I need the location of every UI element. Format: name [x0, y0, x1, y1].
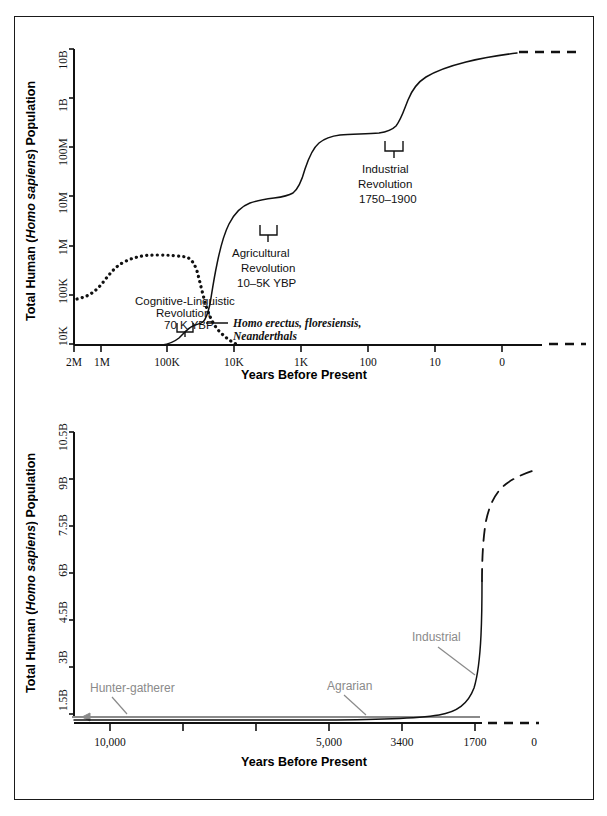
- bottom-ytick-6: 10.5B: [57, 423, 69, 451]
- top-y-title-italic: Homo sapiens: [24, 153, 38, 238]
- bottom-xtick-0: 10,000: [94, 736, 126, 749]
- top-xtick-2: 100K: [154, 356, 180, 368]
- cognitive-line-2: Revolution: [156, 307, 210, 319]
- hunter-gatherer-annotation: Hunter-gatherer: [90, 681, 175, 714]
- cognitive-line-3: 70 K YBP: [164, 319, 214, 331]
- top-ytick-2: 1M: [57, 239, 69, 255]
- bottom-xtick-1: 5,000: [316, 736, 342, 749]
- industrial-line-2: Revolution: [358, 178, 412, 190]
- bottom-y-axis: [69, 432, 74, 716]
- top-x-tick-labels: 2M 1M 100K 10K 1K 100 10 0: [66, 356, 505, 368]
- top-chart-svg: 10K 100K 1M 10M 100M 1B 10B: [14, 16, 594, 386]
- bottom-chart: Total Human (Homo sapiens) Population 1.…: [14, 398, 594, 798]
- bottom-x-axis: [74, 723, 482, 731]
- top-xtick-4: 1K: [294, 356, 309, 368]
- industrial-annotation: Industrial: [412, 630, 475, 675]
- archaic-humans-annotation: Homo erectus, floresiensis, Neanderthals: [206, 317, 361, 342]
- archaic-line-1: Homo erectus, floresiensis,: [232, 317, 361, 330]
- agricultural-line-2: Revolution: [241, 262, 295, 274]
- top-xtick-0: 2M: [66, 356, 82, 368]
- bottom-y-tick-labels: 1.5B 3B 4.5B 6B 7.5B 9B 10.5B: [57, 423, 69, 711]
- agricultural-line-3: 10–5K YBP: [237, 277, 297, 289]
- top-xtick-6: 10: [429, 356, 441, 368]
- top-ytick-1: 100K: [57, 278, 69, 304]
- top-y-title-post: ) Population: [24, 81, 38, 153]
- top-xtick-5: 100: [359, 356, 377, 368]
- top-y-title-pre: Total Human (: [24, 239, 38, 321]
- top-y-tick-labels: 10K 100K 1M 10M 100M 1B 10B: [57, 50, 69, 346]
- industrial-line-3: 1750–1900: [359, 193, 417, 205]
- agricultural-revolution-annotation: Agricultural Revolution 10–5K YBP: [232, 247, 297, 289]
- bottom-ytick-5: 9B: [57, 476, 69, 490]
- bottom-xtick-4: 0: [531, 736, 537, 748]
- bottom-x-tick-labels: 10,000 5,000 3400 1700 0: [94, 736, 537, 749]
- top-ytick-0: 10K: [57, 325, 69, 346]
- top-xtick-1: 1M: [94, 356, 110, 368]
- top-xtick-7: 0: [499, 356, 505, 368]
- top-ytick-3: 10M: [57, 192, 69, 214]
- top-x-axis-title: Years Before Present: [14, 368, 594, 382]
- top-chart: Total Human (Homo sapiens) Population 10…: [14, 16, 594, 386]
- industrial-revolution-bracket: [385, 141, 403, 158]
- bottom-ytick-1: 3B: [57, 650, 69, 664]
- bottom-y-title-pre: Total Human (: [24, 611, 38, 693]
- population-curve: [74, 581, 482, 720]
- bottom-x-axis-title: Years Before Present: [14, 755, 594, 769]
- population-figure: Total Human (Homo sapiens) Population 10…: [0, 0, 607, 816]
- agricultural-revolution-bracket: [260, 225, 277, 242]
- agricultural-line-1: Agricultural: [232, 247, 290, 259]
- top-ytick-5: 1B: [57, 98, 69, 112]
- bottom-ytick-3: 6B: [57, 563, 69, 577]
- top-ytick-4: 100M: [57, 138, 69, 165]
- bottom-ytick-4: 7.5B: [57, 514, 69, 536]
- bottom-y-title-italic: Homo sapiens: [24, 525, 38, 610]
- bottom-xtick-3: 1700: [464, 736, 487, 748]
- hunter-gatherer-label: Hunter-gatherer: [90, 681, 175, 695]
- top-x-axis: [74, 345, 542, 352]
- bottom-ytick-0: 1.5B: [57, 689, 69, 711]
- cognitive-line-1: Cognitive-Linguistic: [135, 295, 235, 307]
- archaic-line-2: Neanderthals: [232, 330, 297, 342]
- bottom-y-axis-title: Total Human (Homo sapiens) Population: [24, 423, 38, 723]
- top-y-axis: [69, 49, 74, 345]
- bottom-projection-dash: [482, 471, 532, 581]
- cognitive-revolution-annotation: Cognitive-Linguistic Revolution 70 K YBP: [135, 295, 235, 331]
- top-ytick-6: 10B: [57, 50, 69, 70]
- agrarian-label: Agrarian: [327, 679, 372, 693]
- top-y-axis-title: Total Human (Homo sapiens) Population: [24, 56, 38, 346]
- bottom-ytick-2: 4.5B: [57, 601, 69, 623]
- industrial-revolution-annotation: Industrial Revolution 1750–1900: [358, 163, 417, 205]
- bottom-chart-svg: 1.5B 3B 4.5B 6B 7.5B 9B 10.5B: [14, 398, 594, 798]
- top-xtick-3: 10K: [224, 356, 245, 368]
- industrial-line-1: Industrial: [362, 163, 409, 175]
- bottom-xtick-2: 3400: [391, 736, 414, 748]
- industrial-label: Industrial: [412, 630, 461, 644]
- agrarian-annotation: Agrarian: [327, 679, 372, 715]
- bottom-y-title-post: ) Population: [24, 453, 38, 525]
